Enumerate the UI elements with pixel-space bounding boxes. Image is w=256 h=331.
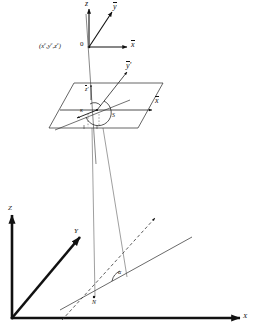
Z-axis-world-label: Z — [8, 205, 12, 212]
image-plane-center-point — [96, 109, 98, 111]
x-bar-axis-label: x — [131, 41, 135, 49]
alpha-angle-label: α — [118, 269, 121, 275]
plane-z-prime-mark: ' — [87, 86, 88, 92]
plane-y-prime-axis — [97, 72, 127, 110]
Y-axis-world-label: Y — [74, 228, 78, 235]
y-bar-axis-label: y — [113, 3, 117, 11]
ray-right-lower — [103, 128, 127, 277]
swing-angle-label: S — [112, 112, 115, 118]
plane-y-prime-axis-label-text: y — [126, 62, 130, 70]
image-plane-group — [49, 72, 163, 130]
plane-x-bar-axis-label-text: x — [155, 97, 159, 105]
y-bar-axis-label-text: y — [113, 3, 117, 11]
rotated-plane-axis — [55, 100, 130, 130]
coord-close-paren: ) — [59, 42, 61, 49]
y-bar-axis — [89, 12, 112, 47]
plane-z-prime-axis-label-text: z — [85, 86, 87, 92]
ground-trace-line — [60, 237, 192, 310]
node-line-label: N — [92, 299, 96, 305]
projection-rays-group — [86, 14, 127, 297]
ray-left-lower — [92, 128, 95, 297]
world-origin-point — [10, 316, 13, 319]
z-bar-axis-label: z — [85, 0, 88, 8]
node-point — [93, 296, 95, 298]
perspective-center-origin-label: 0 — [80, 41, 84, 48]
camera-axes-group — [88, 9, 127, 48]
kappa-angle-label: κ — [80, 107, 83, 113]
plane-x-bar-axis-label: x — [155, 97, 159, 105]
image-plane-quad — [49, 83, 163, 128]
x-bar-axis-label-text: x — [131, 41, 135, 49]
z-bar-axis-label-text: z — [85, 0, 88, 8]
kappa-angle-arc — [90, 103, 101, 106]
X-axis-world-label: X — [243, 313, 247, 320]
figure-root: z y x 0 (xc,yc,zc) y' x z' κ S Z Y X N α — [0, 0, 256, 331]
Y-axis-world — [12, 237, 80, 318]
plane-z-prime-axis-label: z' — [85, 86, 89, 92]
plane-y-prime-axis-label: y' — [126, 62, 131, 70]
perspective-center-coordinates-label: (xc,yc,zc) — [39, 42, 61, 50]
